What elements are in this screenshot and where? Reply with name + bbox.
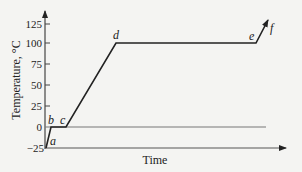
svg-text:−25: −25	[27, 142, 45, 154]
heating-curve-chart: 125 100 75 50 25 0 −25 Temperature, °C T…	[0, 0, 302, 172]
svg-text:125: 125	[26, 18, 43, 30]
svg-text:50: 50	[31, 79, 43, 91]
svg-text:0: 0	[37, 121, 43, 133]
point-labels: a b c d e f	[48, 21, 275, 148]
point-label-d: d	[113, 28, 120, 42]
svg-text:100: 100	[26, 37, 43, 49]
x-axis-label: Time	[143, 153, 168, 167]
heating-curve-line	[46, 20, 268, 148]
point-label-c: c	[60, 113, 66, 127]
svg-text:25: 25	[31, 100, 43, 112]
point-label-b: b	[48, 113, 54, 127]
y-tick-labels: 125 100 75 50 25 0 −25	[26, 18, 45, 154]
y-ticks	[45, 24, 50, 106]
y-axis-label: Temperature, °C	[9, 40, 23, 119]
svg-text:75: 75	[31, 58, 43, 70]
point-label-f: f	[270, 21, 275, 35]
point-label-e: e	[249, 29, 255, 43]
point-label-a: a	[50, 134, 56, 148]
